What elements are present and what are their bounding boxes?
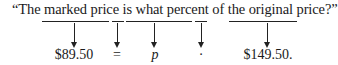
down-arrow-icon xyxy=(201,23,202,43)
down-arrow-icon xyxy=(267,23,268,43)
term-times: · xyxy=(199,47,204,63)
term-marked-price-value: $89.50 xyxy=(55,47,94,63)
underline-marked-price xyxy=(42,21,109,22)
down-arrow-icon xyxy=(117,23,118,43)
question-sentence: “The marked price is what percent of the… xyxy=(12,1,338,18)
down-arrow-icon xyxy=(74,23,75,43)
underline-original-price xyxy=(229,21,297,22)
term-original-price-value: $149.50. xyxy=(244,47,293,63)
underline-what-percent xyxy=(126,21,192,22)
underline-of xyxy=(195,21,207,22)
term-percent-variable: p xyxy=(152,47,159,63)
down-arrow-icon xyxy=(154,23,155,43)
underline-is xyxy=(112,21,124,22)
term-equals: = xyxy=(113,47,121,63)
